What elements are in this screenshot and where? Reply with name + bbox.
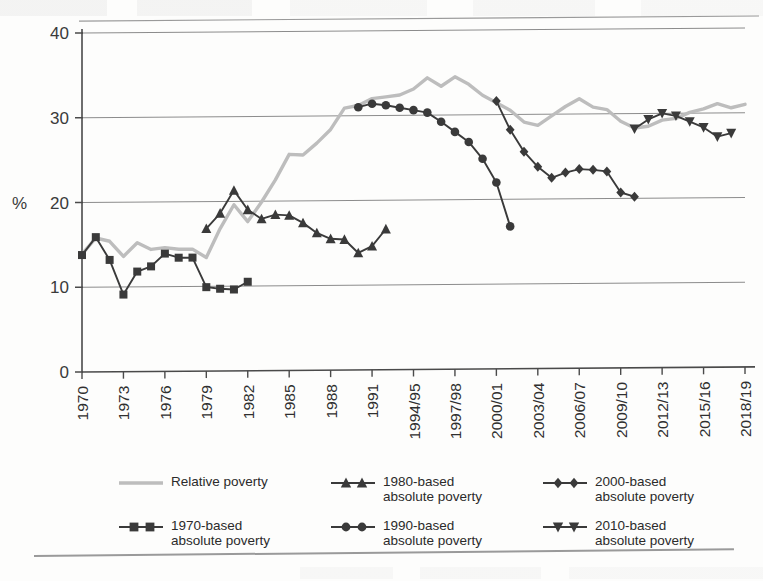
data-point-marker	[685, 117, 695, 127]
x-tick-label: 1982	[240, 385, 257, 419]
data-point-marker	[216, 285, 224, 293]
data-point-marker	[506, 222, 515, 231]
legend-item-b2010[interactable]: 2010-based absolute poverty	[542, 518, 743, 548]
y-tick-label: 30	[50, 109, 69, 128]
data-point-marker	[106, 256, 114, 264]
legend-label: 1990-based absolute poverty	[383, 518, 482, 548]
legend-marker-diamond-icon	[542, 475, 588, 491]
series-1980-based-absolute-poverty	[201, 185, 391, 257]
data-point-marker	[492, 178, 501, 187]
x-tick-label: 1970	[74, 386, 91, 421]
data-point-marker	[298, 218, 308, 228]
data-point-marker	[354, 103, 363, 112]
data-point-marker	[575, 164, 584, 174]
data-point-marker	[589, 165, 598, 175]
legend-item-b1980[interactable]: 1980-based absolute poverty	[330, 474, 542, 504]
data-point-marker	[699, 123, 709, 133]
series-1990-based-absolute-poverty	[354, 99, 515, 230]
x-tick-label: 2009/10	[613, 382, 630, 438]
legend-label: Relative poverty	[171, 474, 268, 489]
data-point-marker	[451, 128, 460, 137]
data-point-marker	[409, 106, 418, 115]
x-tick-label: 1991	[364, 384, 381, 418]
data-point-marker	[312, 228, 322, 238]
data-point-marker	[244, 278, 252, 286]
data-point-marker	[712, 132, 722, 142]
x-tick-label: 2000/01	[488, 383, 505, 439]
legend-label: 1980-based absolute poverty	[383, 474, 482, 504]
legend-item-relative[interactable]: Relative poverty	[118, 474, 330, 504]
data-point-marker	[230, 285, 238, 293]
x-tick-label: 1979	[198, 385, 215, 419]
gridlines	[79, 16, 759, 287]
legend-item-b2000[interactable]: 2000-based absolute poverty	[542, 474, 743, 504]
y-tick-label: 0	[60, 363, 69, 382]
chart-plot-area: 0102030401970197319761979198219851988199…	[0, 0, 763, 470]
data-point-marker	[215, 208, 225, 218]
data-point-marker	[189, 254, 197, 262]
x-tick-label: 1988	[323, 384, 340, 418]
gridline-top-edge	[79, 16, 759, 21]
series-line	[82, 77, 745, 258]
y-tick-label: 20	[50, 194, 69, 213]
legend-item-b1970[interactable]: 1970-based absolute poverty	[118, 518, 330, 548]
legend-label: 2000-based absolute poverty	[595, 474, 694, 504]
y-tick-label: 40	[50, 24, 69, 43]
x-tick-label: 2003/04	[530, 382, 547, 438]
scan-artifact-bottom	[300, 567, 763, 579]
x-tick-label: 1997/98	[447, 383, 464, 439]
x-tick-label: 2018/19	[737, 381, 754, 437]
data-point-marker	[478, 154, 487, 163]
footer-divider	[34, 548, 734, 557]
data-point-marker	[561, 168, 570, 178]
x-tick-label: 1994/95	[406, 384, 423, 440]
y-ticks: 010203040	[50, 24, 83, 382]
x-ticks: 197019731976197919821985198819911994/951…	[74, 367, 754, 440]
data-point-marker	[119, 291, 127, 299]
x-tick-label: 2015/16	[696, 381, 713, 437]
data-point-marker	[437, 118, 446, 127]
legend-label: 1970-based absolute poverty	[171, 518, 270, 548]
data-point-marker	[464, 138, 473, 147]
data-point-marker	[395, 103, 404, 112]
legend-marker-triangle-down-icon	[542, 519, 588, 535]
data-point-marker	[147, 262, 155, 270]
data-point-marker	[175, 254, 183, 262]
series-line	[206, 190, 386, 253]
poverty-trends-figure: % 01020304019701973197619791982198519881…	[0, 0, 763, 581]
x-tick-label: 2012/13	[654, 382, 671, 438]
x-tick-label: 1976	[157, 385, 174, 419]
x-tick-label: 1973	[115, 386, 132, 420]
x-axis-line	[82, 367, 755, 372]
data-point-marker	[382, 101, 391, 110]
data-point-marker	[229, 185, 239, 195]
chart-legend: Relative poverty1980-based absolute pove…	[118, 474, 743, 548]
data-point-marker	[92, 233, 100, 241]
x-tick-label: 2006/07	[571, 382, 588, 438]
data-point-marker	[381, 224, 391, 234]
series-1970-based-absolute-poverty	[78, 233, 252, 298]
data-point-marker	[368, 99, 377, 108]
legend-marker-square-icon	[118, 519, 164, 535]
data-point-marker	[161, 250, 169, 258]
gridline-10	[82, 282, 745, 287]
series-relative-poverty	[82, 77, 745, 258]
data-point-marker	[630, 192, 639, 202]
y-tick-label: 10	[50, 278, 69, 297]
x-tick-label: 1985	[281, 384, 298, 418]
gridline-20	[82, 198, 745, 203]
data-point-marker	[202, 283, 210, 291]
legend-marker-circle-icon	[330, 519, 376, 535]
gridline-40	[82, 28, 745, 33]
legend-item-b1990[interactable]: 1990-based absolute poverty	[330, 518, 542, 548]
data-point-marker	[78, 251, 86, 259]
legend-marker-triangle-up-icon	[330, 475, 376, 491]
legend-label: 2010-based absolute poverty	[595, 518, 694, 548]
legend-marker-line-icon	[118, 475, 164, 491]
series-line	[358, 104, 510, 227]
data-point-marker	[133, 268, 141, 276]
data-point-marker	[423, 108, 432, 117]
